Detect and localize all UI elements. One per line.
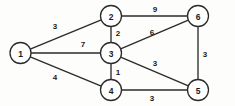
node-circle-1	[10, 43, 31, 64]
graph-node-4: 4	[101, 80, 122, 101]
edge-weight-4-5: 3	[150, 94, 155, 103]
graph-edge-1-2	[30, 20, 101, 49]
graph-node-3: 3	[101, 43, 122, 64]
edge-weight-1-3: 7	[81, 40, 86, 49]
edge-weight-3-4: 1	[116, 68, 121, 77]
edge-weight-6-5: 3	[203, 50, 208, 59]
graph-node-6: 6	[188, 6, 209, 27]
edge-weight-2-6: 9	[153, 5, 158, 14]
edge-weight-1-2: 3	[53, 22, 58, 31]
graph-edge-1-4	[30, 57, 101, 86]
node-circle-5	[188, 80, 209, 101]
graph-edge-3-6	[121, 20, 189, 49]
edge-weight-1-4: 4	[53, 73, 58, 82]
graph-node-2: 2	[101, 6, 122, 27]
graph-node-1: 1	[10, 43, 31, 64]
graph-canvas: 3742963133 123456	[0, 0, 235, 106]
node-circle-2	[101, 6, 122, 27]
node-circle-3	[101, 43, 122, 64]
graph-node-5: 5	[188, 80, 209, 101]
edge-weight-2-3: 2	[116, 29, 121, 38]
node-circle-4	[101, 80, 122, 101]
graph-figure: 3742963133 123456	[0, 0, 235, 106]
edge-weight-3-5: 3	[153, 59, 158, 68]
graph-edge-3-5	[121, 57, 189, 86]
node-circle-6	[188, 6, 209, 27]
